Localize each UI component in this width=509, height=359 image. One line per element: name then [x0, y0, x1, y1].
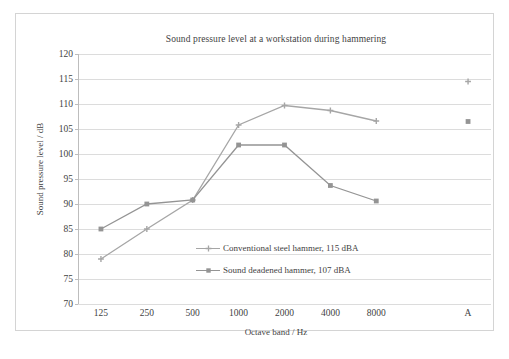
data-point-square [282, 143, 287, 148]
y-tick-label: 105 [39, 124, 73, 134]
y-tick-mark [75, 304, 78, 305]
data-point-square [374, 199, 379, 204]
x-tick-label: 500 [186, 308, 200, 318]
figure-container: Sound pressure level at a workstation du… [0, 0, 509, 359]
y-axis-title: Sound pressure level / dB [35, 99, 45, 239]
series-line [101, 106, 376, 260]
y-tick-label: 110 [39, 99, 73, 109]
cross-marker-icon [196, 242, 220, 254]
x-tick-label: 250 [140, 308, 154, 318]
data-point-square [144, 202, 149, 207]
plot-area: 120115110105100959085807570 125250500100… [78, 54, 491, 304]
data-point-square [236, 143, 241, 148]
x-tick-label: 8000 [367, 308, 386, 318]
square-marker-icon [196, 264, 220, 276]
legend-item-steel: Conventional steel hammer, 115 dBA [196, 237, 426, 259]
legend-item-deadened: Sound deadened hammer, 107 dBA [196, 259, 426, 281]
data-point-cross [282, 103, 288, 109]
legend-label-steel: Conventional steel hammer, 115 dBA [220, 243, 359, 253]
y-tick-label: 95 [39, 174, 73, 184]
chart-frame: Sound pressure level at a workstation du… [15, 13, 494, 331]
data-point-square [99, 227, 104, 232]
y-tick-label: 70 [39, 299, 73, 309]
chart-legend: Conventional steel hammer, 115 dBA Sound… [196, 237, 426, 281]
x-tick-label: A [465, 308, 472, 318]
gridline [78, 304, 491, 305]
y-tick-label: 90 [39, 199, 73, 209]
y-tick-label: 85 [39, 224, 73, 234]
x-tick-label: 2000 [275, 308, 294, 318]
x-tick-label: 4000 [321, 308, 340, 318]
y-tick-label: 115 [39, 74, 73, 84]
data-point-cross [236, 122, 242, 128]
x-tick-label: 1000 [229, 308, 248, 318]
x-axis-title: Octave band / Hz [76, 327, 476, 337]
legend-label-deadened: Sound deadened hammer, 107 dBA [220, 265, 351, 275]
series-steel-hammer [98, 79, 471, 262]
y-tick-label: 120 [39, 49, 73, 59]
data-point-square [190, 198, 195, 203]
data-point-square [466, 119, 471, 124]
x-tick-label: 125 [94, 308, 108, 318]
data-point-cross [373, 118, 379, 124]
y-tick-label: 80 [39, 249, 73, 259]
data-point-square [328, 183, 333, 188]
data-point-cross [465, 79, 471, 85]
y-tick-label: 75 [39, 274, 73, 284]
chart-title: Sound pressure level at a workstation du… [76, 34, 476, 44]
series-line [101, 145, 376, 229]
data-point-cross [327, 108, 333, 114]
series-deadened-hammer [99, 119, 471, 231]
y-tick-label: 100 [39, 149, 73, 159]
